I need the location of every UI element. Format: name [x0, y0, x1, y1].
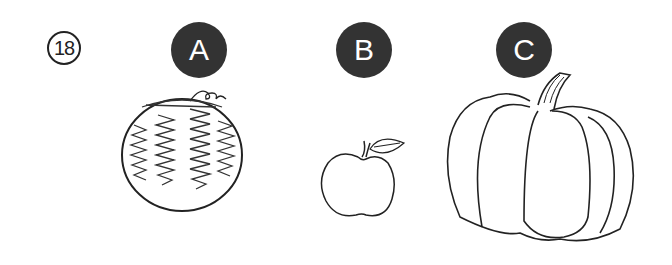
question-number-text: 18 [54, 37, 74, 60]
option-a-label: A [189, 33, 209, 67]
watermelon-icon [120, 85, 270, 225]
pumpkin-image[interactable] [440, 65, 665, 250]
option-b-badge[interactable]: B [336, 22, 392, 78]
option-c-label: C [513, 33, 535, 67]
apple-icon [318, 135, 418, 220]
pumpkin-icon [440, 65, 665, 250]
question-number: 18 [47, 31, 81, 65]
option-b-label: B [354, 33, 374, 67]
apple-image[interactable] [318, 135, 418, 220]
watermelon-image[interactable] [120, 85, 270, 225]
option-a-badge[interactable]: A [171, 22, 227, 78]
